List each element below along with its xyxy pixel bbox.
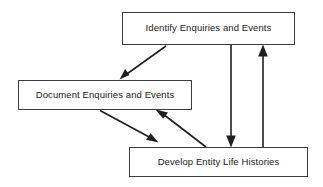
edge-develop-to-document xyxy=(156,110,207,148)
edge-identify-to-document xyxy=(120,46,167,80)
edge-develop-to-identify xyxy=(258,45,268,148)
edge-document-to-develop xyxy=(100,111,159,143)
diagram-canvas: Identify Enquiries and Events Document E… xyxy=(0,0,323,187)
node-label-develop: Develop Entity Life Histories xyxy=(158,157,280,167)
node-identify-enquiries-and-events[interactable]: Identify Enquiries and Events xyxy=(122,12,295,45)
node-develop-entity-life-histories[interactable]: Develop Entity Life Histories xyxy=(129,147,308,177)
node-label-document: Document Enquiries and Events xyxy=(36,90,175,100)
edge-identify-to-develop xyxy=(226,45,236,148)
node-label-identify: Identify Enquiries and Events xyxy=(146,23,272,33)
node-document-enquiries-and-events[interactable]: Document Enquiries and Events xyxy=(18,80,192,110)
